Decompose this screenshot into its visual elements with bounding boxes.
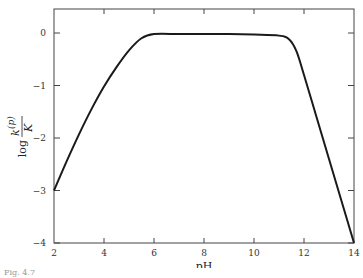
svg-text:0: 0 bbox=[40, 28, 46, 38]
plot-frame bbox=[54, 9, 354, 243]
svg-text:8: 8 bbox=[201, 248, 207, 258]
svg-text:(p): (p) bbox=[6, 116, 16, 129]
chart: 24681012140−1−2−3−4 pH logk(p)K bbox=[0, 0, 363, 268]
y-axis-label: logk(p)K bbox=[6, 116, 35, 157]
svg-text:2: 2 bbox=[51, 248, 57, 258]
svg-text:K: K bbox=[22, 123, 35, 133]
svg-text:4: 4 bbox=[101, 248, 107, 258]
svg-text:14: 14 bbox=[348, 248, 360, 258]
svg-text:10: 10 bbox=[248, 248, 260, 258]
svg-text:−4: −4 bbox=[33, 238, 47, 248]
svg-text:−1: −1 bbox=[33, 81, 46, 91]
svg-text:k: k bbox=[9, 129, 22, 136]
svg-text:−3: −3 bbox=[33, 186, 47, 196]
tick-labels: 24681012140−1−2−3−4 bbox=[33, 28, 360, 258]
svg-text:12: 12 bbox=[298, 248, 309, 258]
x-axis-label: pH bbox=[196, 260, 213, 268]
figure-caption: Fig. 4.7 bbox=[4, 268, 35, 277]
svg-text:log: log bbox=[16, 140, 29, 157]
axis-ticks bbox=[54, 9, 354, 243]
svg-text:−2: −2 bbox=[33, 133, 46, 143]
data-curve bbox=[54, 34, 354, 243]
svg-text:6: 6 bbox=[151, 248, 157, 258]
